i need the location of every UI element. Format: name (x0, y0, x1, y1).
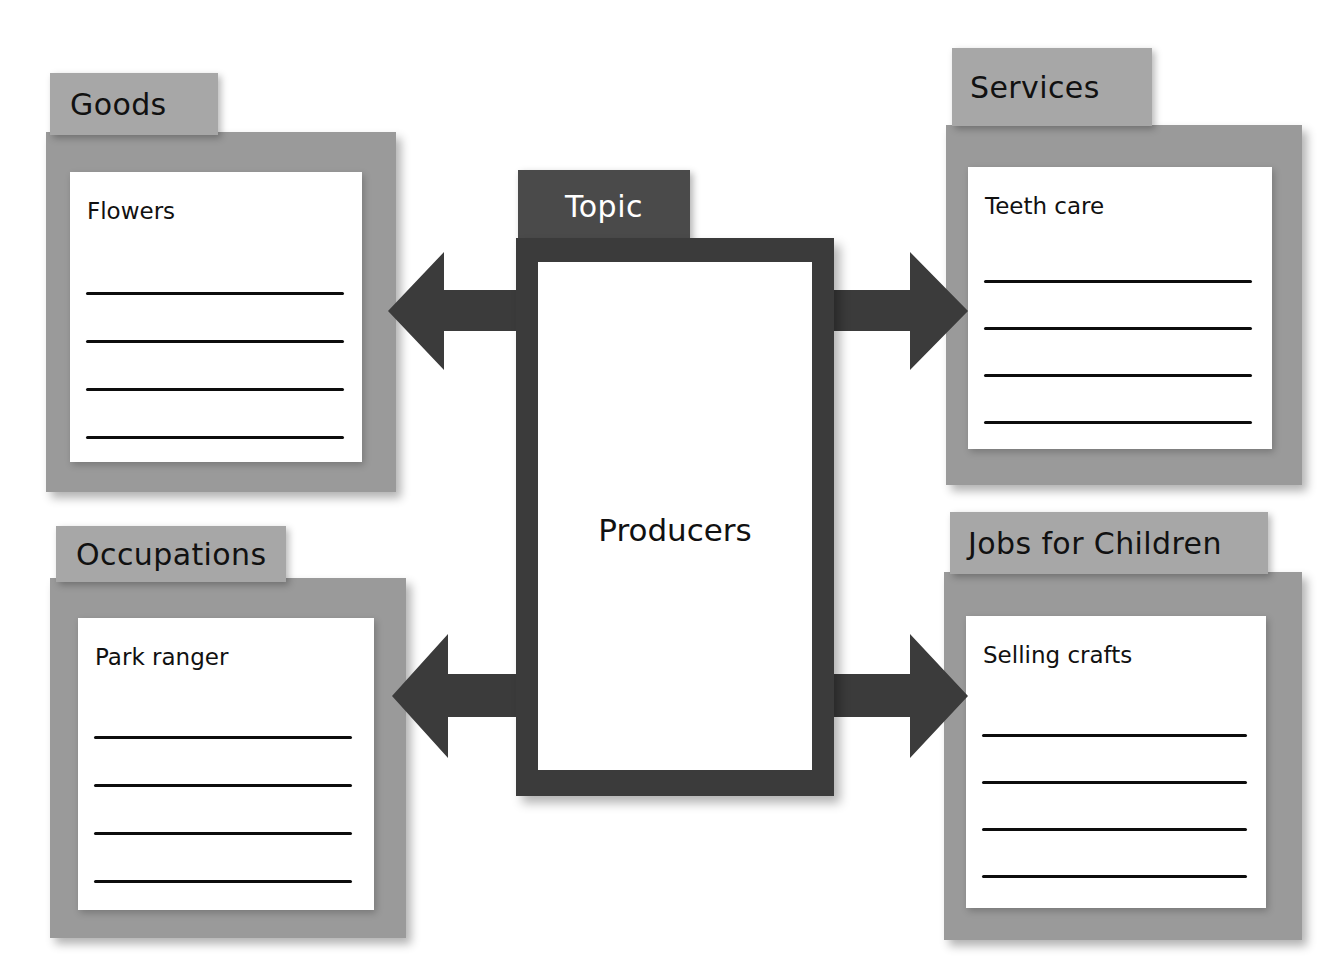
card-occupations-tab-label: Occupations (76, 537, 267, 572)
card-services-entry: Teeth care (985, 193, 1104, 219)
card-jobs-for-children-rule-4[interactable] (982, 875, 1247, 878)
card-goods-rule-3[interactable] (86, 388, 344, 391)
card-goods-rule-1[interactable] (86, 292, 344, 295)
card-services-paper: Teeth care (968, 167, 1272, 449)
card-goods-rule-4[interactable] (86, 436, 344, 439)
card-occupations-rule-3[interactable] (94, 832, 352, 835)
arrow-center-to-occupations (390, 618, 535, 773)
card-goods-paper: Flowers (70, 172, 362, 462)
card-services-rule-1[interactable] (984, 280, 1252, 283)
card-services-rule-4[interactable] (984, 421, 1252, 424)
card-occupations-rule-4[interactable] (94, 880, 352, 883)
card-services-tab-label: Services (970, 70, 1100, 105)
card-goods-entry: Flowers (87, 198, 175, 224)
card-jobs-for-children-entry: Selling crafts (983, 642, 1132, 668)
card-services-rule-2[interactable] (984, 327, 1252, 330)
card-jobs-for-children-paper: Selling crafts (966, 616, 1266, 908)
card-services[interactable]: Teeth care (946, 125, 1302, 485)
card-occupations-paper: Park ranger (78, 618, 374, 910)
topic-box-inner: Producers (538, 262, 812, 770)
topic-tab[interactable]: Topic (518, 170, 690, 242)
card-occupations-rule-1[interactable] (94, 736, 352, 739)
card-jobs-for-children[interactable]: Selling crafts (944, 572, 1302, 940)
arrow-center-to-services (820, 238, 970, 383)
topic-box[interactable]: Producers (516, 238, 834, 796)
topic-tab-label: Topic (565, 189, 643, 224)
card-occupations[interactable]: Park ranger (50, 578, 406, 938)
card-jobs-for-children-tab-label: Jobs for Children (968, 526, 1222, 561)
arrow-center-to-goods (386, 238, 531, 383)
card-jobs-for-children-tab[interactable]: Jobs for Children (950, 512, 1268, 574)
card-goods-tab[interactable]: Goods (50, 73, 218, 135)
topic-word: Producers (538, 512, 812, 548)
card-jobs-for-children-rule-3[interactable] (982, 828, 1247, 831)
card-goods[interactable]: Flowers (46, 132, 396, 492)
arrow-center-to-jobs-for-children (820, 618, 970, 773)
worksheet-canvas: Flowers Goods Teeth care Services Park r… (0, 0, 1339, 978)
card-occupations-entry: Park ranger (95, 644, 228, 670)
card-goods-rule-2[interactable] (86, 340, 344, 343)
card-occupations-tab[interactable]: Occupations (56, 526, 286, 582)
card-goods-tab-label: Goods (70, 87, 167, 122)
card-services-rule-3[interactable] (984, 374, 1252, 377)
card-jobs-for-children-rule-2[interactable] (982, 781, 1247, 784)
card-occupations-rule-2[interactable] (94, 784, 352, 787)
card-jobs-for-children-rule-1[interactable] (982, 734, 1247, 737)
card-services-tab[interactable]: Services (952, 48, 1152, 126)
